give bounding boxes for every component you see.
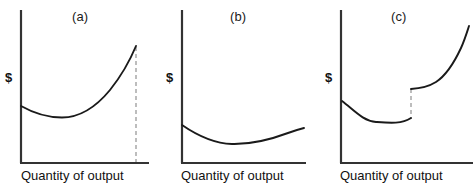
- panel-c-x-axis-label: Quantity of output: [340, 168, 443, 183]
- panel-b-y-axis-label: $: [166, 70, 173, 85]
- panel-c-letter: (c): [391, 9, 406, 24]
- panel-a-cost-curve: [21, 46, 136, 118]
- panel-c-cost-curve-lower: [342, 101, 411, 123]
- panel-b-cost-curve: [182, 125, 304, 144]
- panel-a-letter: (a): [72, 9, 88, 24]
- panel-a-y-axis-label: $: [5, 70, 12, 85]
- panel-a-plot: [0, 0, 155, 190]
- panel-a: (a) $ Quantity of output: [0, 0, 155, 190]
- panel-a-x-axis-label: Quantity of output: [21, 168, 124, 183]
- panel-b-x-axis-label: Quantity of output: [181, 168, 284, 183]
- panel-b-plot: [160, 0, 315, 190]
- panel-c-y-axis-label: $: [325, 70, 332, 85]
- cost-curves-figure: (a) $ Quantity of output (b) $ Quantity …: [0, 0, 473, 190]
- panel-c-plot: [318, 0, 473, 190]
- panel-c: (c) $ Quantity of output: [318, 0, 473, 190]
- panel-b: (b) $ Quantity of output: [160, 0, 315, 190]
- panel-b-letter: (b): [230, 9, 246, 24]
- panel-c-cost-curve-upper: [411, 26, 469, 89]
